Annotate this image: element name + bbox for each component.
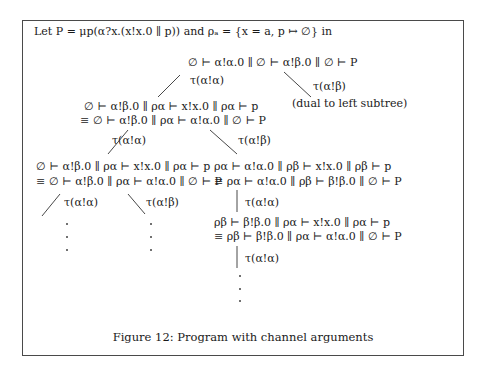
l1-node-line1: ∅ ⊢ α!β.0 ∥ ρα ⊢ x!x.0 ∥ ρα ⊢ p [84,100,258,113]
figure-header: Let P = μp(α?x.(x!x.0 ∥ p)) and ρₐ = {x … [34,25,332,38]
l1-left-edge-label: τ(α!α) [112,134,146,147]
l2-right-node-line1: ρα ⊢ α!α.0 ∥ ρβ ⊢ x!x.0 ∥ ρβ ⊢ p [214,160,391,173]
l2-left-node-line2: ≡ ∅ ⊢ α!β.0 ∥ ρα ⊢ α!α.0 ∥ ∅ ⊢ P [36,175,222,188]
root-left-edge-label: τ(α!α) [190,74,224,87]
tree-root: ∅ ⊢ α!α.0 ∥ ∅ ⊢ α!β.0 ∥ ∅ ⊢ P [188,56,357,69]
l3-right-node-line2: ≡ ρβ ⊢ β!β.0 ∥ ρα ⊢ α!α.0 ∥ ∅ ⊢ P [214,230,402,243]
l2-left-right-edge-label: τ(α!β) [146,196,179,209]
root-right-child: (dual to left subtree) [292,97,407,110]
figure-frame [22,20,464,356]
figure-caption: Figure 12: Program with channel argument… [22,330,464,344]
l2-right-node-line2: ≡ ρα ⊢ α!α.0 ∥ ρβ ⊢ β!β.0 ∥ ∅ ⊢ P [214,175,402,188]
l2-left-left-edge-label: τ(α!α) [64,196,98,209]
l3-right-node-line1: ρβ ⊢ β!β.0 ∥ ρα ⊢ x!x.0 ∥ ρα ⊢ p [214,216,390,229]
l2-right-down-edge-label: τ(α!α) [245,196,279,209]
root-right-edge-label: τ(α!β) [313,80,346,93]
l3-right-down-edge-label: τ(α!α) [245,252,279,265]
l1-right-edge-label: τ(α!β) [238,134,271,147]
l1-node-line2: ≡ ∅ ⊢ α!β.0 ∥ ρα ⊢ α!α.0 ∥ ∅ ⊢ P [80,114,266,127]
l2-left-node-line1: ∅ ⊢ α!β.0 ∥ ρα ⊢ x!x.0 ∥ ρα ⊢ p [36,160,210,173]
